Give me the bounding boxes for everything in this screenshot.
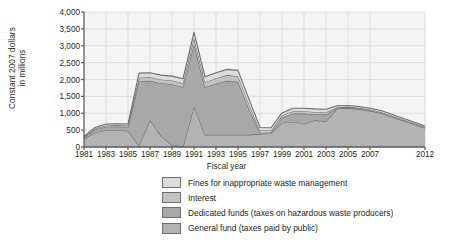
y-axis-tick-labels: 05001,0001,5002,0002,5003,0003,5004,000	[42, 0, 80, 245]
y-axis-tick-label: 3,000	[46, 41, 80, 50]
y-axis-tick-label: 2,500	[46, 58, 80, 67]
legend-swatch	[162, 223, 181, 234]
x-axis-tick-label: 2012	[416, 150, 434, 159]
y-axis-tick-label: 1,000	[46, 109, 80, 118]
chart-figure: Constant 2007 dollars in millions 05001,…	[0, 0, 453, 245]
y-axis-title: Constant 2007 dollars in millions	[8, 0, 28, 138]
x-axis-tick-label: 2007	[361, 150, 379, 159]
legend-item: General fund (taxes paid by public)	[162, 221, 452, 236]
x-axis-tick-label: 1991	[185, 150, 203, 159]
legend-item: Dedicated funds (taxes on hazardous wast…	[162, 205, 452, 220]
x-axis-tick-label: 1997	[251, 150, 269, 159]
y-axis-title-line-2: in millions	[18, 0, 28, 138]
x-axis-tick-label: 2005	[339, 150, 357, 159]
x-axis-title: Fiscal year	[0, 162, 453, 171]
legend-item: Fines for inappropriate waste management	[162, 175, 452, 190]
legend-swatch	[162, 177, 181, 188]
y-axis-title-line-1: Constant 2007 dollars	[8, 0, 18, 138]
x-axis-tick-label: 1995	[229, 150, 247, 159]
legend-label: Fines for inappropriate waste management	[188, 178, 347, 188]
legend-label: Dedicated funds (taxes on hazardous wast…	[188, 208, 393, 218]
x-axis-tick-label: 1989	[163, 150, 181, 159]
x-axis-tick-label: 2003	[317, 150, 335, 159]
y-axis-tick-label: 3,500	[46, 24, 80, 33]
x-axis-tick-label: 1981	[75, 150, 93, 159]
x-axis-tick-label: 1987	[141, 150, 159, 159]
y-axis-tick-label: 2,000	[46, 75, 80, 84]
legend-item: Interest	[162, 190, 452, 205]
x-axis-tick-label: 2001	[295, 150, 313, 159]
x-axis-tick-label: 1983	[97, 150, 115, 159]
legend-swatch	[162, 207, 181, 218]
x-axis-tick-label: 1993	[207, 150, 225, 159]
chart-legend: Fines for inappropriate waste management…	[162, 175, 452, 236]
x-axis-tick-label: 1999	[273, 150, 291, 159]
y-axis-tick-label: 4,000	[46, 8, 80, 17]
x-axis-tick-labels: 1981198319851987198919911993199519971999…	[0, 150, 453, 162]
legend-label: Interest	[188, 193, 216, 203]
legend-swatch	[162, 192, 181, 203]
x-axis-tick-label: 1985	[119, 150, 137, 159]
y-axis-tick-label: 1,500	[46, 92, 80, 101]
y-axis-tick-label: 500	[46, 126, 80, 135]
legend-label: General fund (taxes paid by public)	[188, 223, 318, 233]
